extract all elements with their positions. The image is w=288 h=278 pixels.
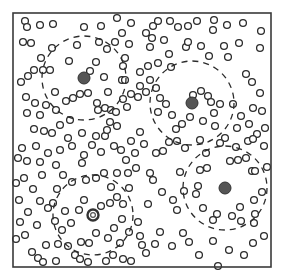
particle-icon: [40, 259, 47, 266]
particle-icon: [211, 17, 218, 24]
particle-icon: [166, 139, 173, 146]
particle-icon: [197, 167, 204, 174]
particle-icon: [103, 258, 110, 265]
particle-icon: [185, 23, 192, 30]
particle-icon: [34, 222, 41, 229]
particle-icon: [114, 170, 121, 177]
particle-icon: [104, 46, 111, 53]
particle-icon: [112, 39, 119, 46]
particle-icon: [53, 162, 60, 169]
particle-icon: [123, 157, 130, 164]
particle-icon: [54, 186, 61, 193]
particle-icon: [57, 122, 64, 129]
particle-icon: [212, 123, 219, 130]
particle-icon: [206, 53, 213, 60]
particle-icon: [22, 232, 29, 239]
particle-icon: [122, 77, 129, 84]
particle-icon: [113, 109, 120, 116]
particle-icon: [135, 219, 142, 226]
particle-icon: [252, 168, 259, 175]
particle-icon: [187, 114, 194, 121]
particle-icon: [155, 109, 162, 116]
particle-icon: [107, 119, 114, 126]
particle-icon: [217, 101, 224, 108]
particle-icon: [77, 256, 84, 263]
particle-icon: [31, 67, 38, 74]
particle-icon: [128, 20, 135, 27]
particle-icon: [225, 54, 232, 61]
particle-icon: [167, 18, 174, 25]
particle-icon: [139, 242, 146, 249]
particle-icon: [32, 100, 39, 107]
particle-icon: [137, 129, 144, 136]
particle-icon: [160, 148, 167, 155]
particle-icon: [93, 230, 100, 237]
particle-icon: [81, 152, 88, 159]
particle-icon: [118, 147, 125, 154]
particle-icon: [157, 95, 164, 102]
particle-icon: [235, 157, 242, 164]
particle-icon: [147, 77, 154, 84]
particle-icon: [200, 118, 207, 125]
particle-icon: [221, 43, 228, 50]
particle-icon: [126, 41, 133, 48]
particle-icon: [143, 30, 150, 37]
particle-icon: [126, 185, 133, 192]
particle-icon: [173, 126, 180, 133]
particle-icon: [143, 250, 150, 257]
particle-icon: [24, 24, 31, 31]
particle-icon: [147, 44, 154, 51]
particle-icon: [152, 241, 159, 248]
particle-icon: [33, 143, 40, 150]
particle-icon: [81, 24, 88, 31]
particle-icon: [132, 150, 139, 157]
particle-icon: [261, 233, 268, 240]
center-particle-filled-icon: [186, 97, 198, 109]
particle-icon: [78, 239, 85, 246]
particle-icon: [63, 98, 70, 105]
particle-icon: [180, 230, 187, 237]
particle-icon: [166, 51, 173, 58]
particle-icon: [69, 143, 76, 150]
particle-icon: [257, 90, 264, 97]
particle-icon: [155, 60, 162, 67]
particles-layer: [13, 15, 271, 270]
particle-icon: [31, 126, 38, 133]
particle-icon: [119, 216, 126, 223]
particle-icon: [110, 252, 117, 259]
particle-icon: [200, 205, 207, 212]
particle-icon: [45, 150, 52, 157]
particle-icon: [234, 125, 241, 132]
particle-icon: [186, 239, 193, 246]
particle-diagram: [0, 0, 288, 278]
particle-icon: [105, 235, 112, 242]
particle-icon: [241, 252, 248, 259]
particle-icon: [15, 155, 22, 162]
particle-icon: [149, 35, 156, 42]
particle-icon: [174, 207, 181, 214]
particle-icon: [25, 73, 32, 80]
particle-icon: [111, 143, 118, 150]
particle-icon: [227, 158, 234, 165]
particle-icon: [108, 184, 115, 191]
particle-icon: [59, 227, 66, 234]
particle-icon: [38, 55, 45, 62]
particle-icon: [55, 241, 62, 248]
particle-icon: [53, 258, 60, 265]
particle-icon: [163, 101, 170, 108]
particle-icon: [211, 110, 218, 117]
particle-icon: [147, 170, 154, 177]
particle-icon: [182, 145, 189, 152]
particle-icon: [250, 136, 257, 143]
particle-icon: [250, 105, 257, 112]
particle-icon: [126, 229, 133, 236]
particle-icon: [169, 243, 176, 250]
particle-icon: [37, 159, 44, 166]
particle-icon: [85, 259, 92, 266]
particle-icon: [141, 141, 148, 148]
particle-icon: [74, 42, 81, 49]
particle-icon: [198, 88, 205, 95]
particle-icon: [29, 249, 36, 256]
particle-icon: [50, 21, 57, 28]
particle-icon: [262, 125, 269, 132]
